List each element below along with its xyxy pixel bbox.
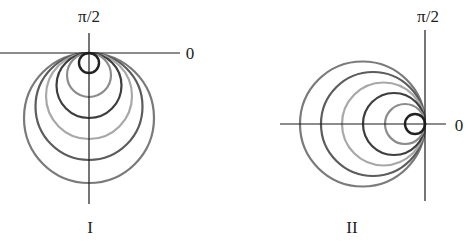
panel-caption-i: I	[87, 218, 93, 237]
angle-label-pi-over-2-i: π/2	[78, 7, 100, 26]
panel-caption-ii: II	[346, 218, 358, 237]
polar-circles-figure: π/2 0 I π/2 0 II	[0, 0, 468, 246]
panel-ii: π/2 0 II	[280, 7, 463, 237]
angle-label-zero-ii: 0	[455, 116, 464, 135]
angle-label-zero-i: 0	[186, 44, 195, 63]
angle-label-pi-over-2-ii: π/2	[417, 7, 439, 26]
panel-i: π/2 0 I	[0, 7, 194, 237]
